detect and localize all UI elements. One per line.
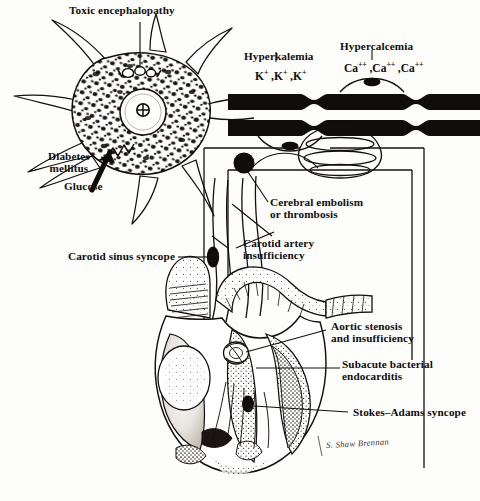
label-subacute-bacterial-endocarditis: Subacute bacterial endocarditis: [342, 358, 433, 382]
label-hypercalcemia: Hypercalcemia: [340, 40, 413, 52]
label-diabetes-mellitus: Diabetes mellitus: [48, 150, 90, 174]
label-carotid-sinus-syncope: Carotid sinus syncope: [68, 250, 175, 262]
label-stokes-adams-syncope: Stokes–Adams syncope: [353, 406, 466, 418]
label-carotid-artery-insufficiency: Carotid artery insufficiency: [243, 237, 314, 261]
cerebral-embolus: [234, 153, 255, 174]
nerve-fiber-upper: [228, 94, 480, 110]
label-hyperkalemia: Hyperkalemia: [244, 50, 314, 62]
aortic-valve: [224, 342, 249, 364]
illustration-plate: Toxic encephalopathy Diabetes mellitus G…: [0, 0, 480, 501]
label-glucose: Glucose: [64, 180, 103, 192]
label-aortic-stenosis: Aortic stenosis and insufficiency: [331, 320, 414, 344]
conduction-node-marker: [242, 396, 254, 413]
label-cerebral-embolism: Cerebral embolism or thrombosis: [270, 196, 363, 220]
label-potassium-ions: K+ ,K+ ,K+: [255, 68, 306, 82]
label-toxic-encephalopathy: Toxic encephalopathy: [69, 4, 175, 16]
carotid-sinus-marker: [207, 247, 219, 268]
label-calcium-ions: Ca++ ,Ca++ ,Ca++: [344, 60, 423, 74]
